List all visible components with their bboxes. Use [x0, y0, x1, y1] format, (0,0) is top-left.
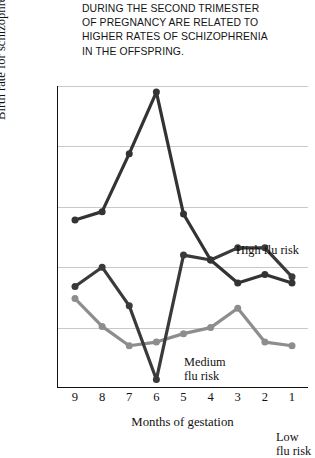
plot-area: .15.10.050-.05-.10 987654321 High flu ri… [57, 86, 308, 388]
annotation-medium-flu-risk-line2: flu risk [184, 370, 226, 384]
data-point [289, 342, 296, 349]
data-point [207, 324, 214, 331]
x-tick-label: 5 [172, 390, 196, 405]
data-point [126, 302, 133, 309]
annotation-low-flu-risk: Low flu risk [276, 431, 311, 458]
annotation-medium-flu-risk: Medium flu risk [184, 356, 226, 383]
annotation-high-flu-risk-line1: High flu risk [236, 244, 299, 258]
caption-line-1: DURING THE SECOND TRIMESTER [82, 2, 311, 16]
caption-line-2: OF PREGNANCY ARE RELATED TO [82, 16, 311, 30]
data-point [261, 339, 268, 346]
y-axis-label: Birth rate for schizophrenia per 1,000 [0, 0, 9, 120]
data-point [289, 279, 296, 286]
data-point [289, 273, 296, 280]
data-point [99, 323, 106, 330]
data-point [72, 217, 79, 224]
x-axis-label: Months of gestation [57, 415, 308, 430]
x-tick-label: 2 [253, 390, 277, 405]
x-tick-label: 7 [117, 390, 141, 405]
annotation-medium-flu-risk-line1: Medium [184, 356, 226, 370]
annotation-low-flu-risk-line2: flu risk [276, 445, 311, 458]
data-point [180, 330, 187, 337]
x-tick-label: 1 [280, 390, 304, 405]
series-layer [58, 86, 309, 388]
data-point [153, 339, 160, 346]
data-point [180, 211, 187, 218]
data-point [261, 271, 268, 278]
data-point [72, 295, 79, 302]
data-point [99, 264, 106, 271]
annotation-low-flu-risk-line1: Low [276, 431, 311, 445]
data-point [126, 150, 133, 157]
x-tick-label: 6 [144, 390, 168, 405]
data-point [207, 256, 214, 263]
x-tick-label: 4 [199, 390, 223, 405]
annotation-high-flu-risk: High flu risk [236, 244, 299, 258]
figure-caption: DURING THE SECOND TRIMESTER OF PREGNANCY… [82, 2, 311, 59]
data-point [99, 208, 106, 215]
data-point [72, 283, 79, 290]
series-low-flu-risk [72, 295, 296, 349]
x-tick-label: 3 [226, 390, 250, 405]
data-point [234, 305, 241, 312]
data-point [234, 279, 241, 286]
data-point [180, 252, 187, 259]
series-line [75, 299, 292, 346]
data-point [153, 89, 160, 96]
caption-line-4: IN THE OFFSPRING. [82, 45, 311, 59]
data-point [126, 342, 133, 349]
caption-line-3: HIGHER RATES OF SCHIZOPHRENIA [82, 30, 311, 44]
x-tick-label: 8 [90, 390, 114, 405]
x-tick-label: 9 [63, 390, 87, 405]
data-point [153, 376, 160, 383]
